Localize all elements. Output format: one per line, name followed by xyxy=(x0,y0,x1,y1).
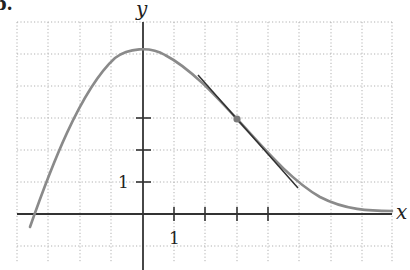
x-axis-label: x xyxy=(396,200,407,224)
y-axis-label: y xyxy=(135,0,148,21)
part-label: b. xyxy=(0,0,13,14)
x-tick-label-1: 1 xyxy=(169,228,180,248)
y-tick-label-1: 1 xyxy=(118,172,129,192)
tangent-point xyxy=(233,115,240,122)
graph-figure: b. y x 1 1 xyxy=(0,0,410,270)
function-curve xyxy=(30,49,392,227)
grid xyxy=(17,22,392,262)
tangent-line xyxy=(198,75,298,188)
